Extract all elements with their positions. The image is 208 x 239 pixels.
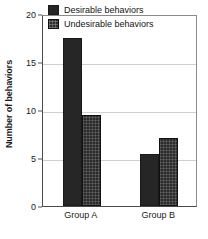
y-tick-label-0: 0 [31, 202, 36, 212]
y-tick-label-5: 5 [31, 154, 36, 164]
y-axis-title: Number of behaviors [0, 0, 18, 207]
x-tick-label-group-a: Group A [64, 210, 97, 220]
bar-group-a-desirable [63, 38, 82, 206]
x-tick-label-group-b: Group B [141, 210, 175, 220]
legend-swatch-desirable-icon [48, 5, 59, 15]
y-tick-label-10: 10 [26, 106, 36, 116]
legend-item-undesirable: Undesirable behaviors [48, 18, 154, 30]
legend-item-desirable: Desirable behaviors [48, 4, 154, 16]
x-axis-tick-labels: Group A Group B [42, 210, 197, 226]
bar-group-b-desirable [140, 154, 159, 206]
chart-legend: Desirable behaviors Undesirable behavior… [48, 4, 154, 30]
y-tick-label-20: 20 [26, 10, 36, 20]
y-tick-label-15: 15 [26, 58, 36, 68]
bar-chart: Number of behaviors 20 15 10 5 0 [0, 0, 208, 239]
bar-group-b-undesirable [159, 138, 178, 206]
y-axis-title-text: Number of behaviors [4, 59, 14, 147]
legend-label-desirable: Desirable behaviors [64, 5, 144, 15]
bar-group-a-undesirable [82, 115, 101, 206]
legend-label-undesirable: Undesirable behaviors [64, 19, 154, 29]
legend-swatch-undesirable-icon [48, 19, 59, 29]
plot-area [42, 15, 197, 207]
y-axis-tick-labels: 20 15 10 5 0 [18, 0, 40, 239]
bars-layer [43, 16, 196, 206]
